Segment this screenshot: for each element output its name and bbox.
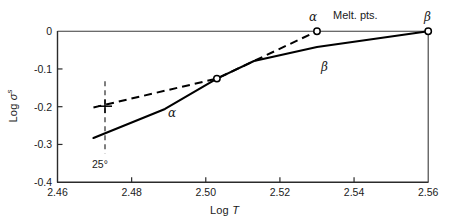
y-axis-title: Log σs — [5, 66, 19, 146]
x-tick-label: 2.50 — [196, 186, 216, 198]
series-beta-dashed — [93, 31, 317, 107]
y-axis-ticks — [58, 69, 63, 145]
x-axis-title: Log T — [0, 204, 449, 216]
data-point-marker — [314, 28, 320, 34]
temperature-25-label: 25° — [92, 158, 108, 170]
y-tick-label: -0.3 — [18, 138, 52, 150]
y-tick-label: 0 — [18, 25, 52, 37]
beta-melt-point-label: β — [424, 10, 431, 24]
series-alpha-solid — [93, 31, 428, 138]
melt-pts-annotation: Melt. pts. — [333, 9, 378, 21]
y-tick-label: -0.1 — [18, 63, 52, 75]
alpha-melt-point-label: α — [309, 10, 317, 24]
y-axis-title-superscript: s — [5, 89, 14, 93]
y-tick-label: -0.2 — [18, 101, 52, 113]
axis-spines — [57, 31, 429, 183]
x-tick-label: 2.54 — [344, 186, 364, 198]
alpha-curve-label: α — [168, 106, 176, 120]
x-tick-label: 2.56 — [418, 186, 438, 198]
x-axis-title-prefix: Log — [210, 204, 232, 216]
marker-25deg-plus — [98, 100, 112, 114]
beta-curve-label: β — [321, 60, 328, 74]
y-tick-label: -0.4 — [18, 176, 52, 188]
x-axis-ticks — [132, 177, 354, 182]
x-tick-label: 2.52 — [270, 186, 290, 198]
y-axis-title-variable: σ — [7, 93, 19, 100]
x-axis-title-variable: T — [232, 204, 239, 216]
x-tick-label: 2.48 — [121, 186, 141, 198]
data-point-marker — [425, 28, 431, 34]
data-point-marker — [214, 75, 220, 81]
